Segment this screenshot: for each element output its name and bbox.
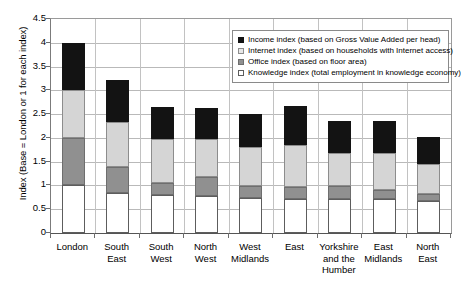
x-axis-tick-mark (50, 233, 51, 238)
bar-segment-knowledge[interactable] (151, 195, 174, 233)
bar-segment-office[interactable] (373, 190, 396, 199)
x-axis-tick-mark (406, 233, 407, 238)
bar-segment-knowledge[interactable] (373, 199, 396, 233)
bar-segment-office[interactable] (195, 177, 218, 196)
x-axis-tick-mark (94, 233, 95, 238)
bar-segment-income[interactable] (284, 106, 307, 145)
x-axis-tick-marks (50, 233, 452, 238)
legend-label: Knowledge index (total employment in kno… (248, 68, 461, 77)
bar-segment-knowledge[interactable] (328, 199, 351, 233)
x-axis-tick-mark (317, 233, 318, 238)
bar-segment-internet[interactable] (195, 139, 218, 177)
bar-segment-knowledge[interactable] (106, 193, 129, 233)
bar-segment-office[interactable] (328, 186, 351, 198)
stacked-bar[interactable] (195, 19, 218, 233)
bar-segment-knowledge[interactable] (62, 185, 85, 233)
stacked-bar[interactable] (62, 19, 85, 233)
legend-swatch-income-icon (238, 37, 244, 43)
bar-segment-income[interactable] (239, 114, 262, 147)
stacked-bar[interactable] (106, 19, 129, 233)
y-axis-tick-label: 3 (6, 85, 46, 95)
x-axis-label-line: Humber (311, 264, 367, 276)
legend-item[interactable]: Office index (based on floor area) (238, 57, 444, 68)
y-axis-tick-labels: 00.511.522.533.544.5 (2, 18, 46, 232)
bar-segment-office[interactable] (417, 194, 440, 201)
bar-segment-internet[interactable] (284, 145, 307, 187)
bar-segment-knowledge[interactable] (195, 196, 218, 233)
legend-item[interactable]: Knowledge index (total employment in kno… (238, 68, 444, 79)
bar-segment-office[interactable] (151, 183, 174, 195)
bar-group[interactable] (184, 19, 228, 233)
legend-swatch-knowledge-icon (238, 70, 244, 76)
bar-segment-internet[interactable] (328, 153, 351, 187)
legend-item[interactable]: Income index (based on Gross Value Added… (238, 35, 444, 46)
bar-segment-knowledge[interactable] (239, 198, 262, 233)
bar-segment-income[interactable] (195, 108, 218, 139)
bar-segment-office[interactable] (106, 167, 129, 193)
legend-label: Office index (based on floor area) (248, 57, 367, 66)
bar-segment-knowledge[interactable] (284, 199, 307, 233)
bar-segment-income[interactable] (328, 121, 351, 152)
y-axis-tick-label: 1 (6, 180, 46, 190)
bar-segment-knowledge[interactable] (417, 201, 440, 233)
x-axis-tick-labels: LondonSouthEastSouthWestNorthWestWestMid… (50, 241, 450, 289)
y-axis-tick-label: 4.5 (6, 13, 46, 22)
bar-segment-internet[interactable] (239, 147, 262, 186)
y-axis-tick-label: 0 (6, 227, 46, 237)
bar-group[interactable] (51, 19, 95, 233)
stacked-bar[interactable] (151, 19, 174, 233)
bar-segment-office[interactable] (284, 187, 307, 199)
x-axis-tick-mark (139, 233, 140, 238)
bar-segment-internet[interactable] (417, 164, 440, 194)
chart-legend: Income index (based on Gross Value Added… (232, 30, 449, 83)
bar-segment-income[interactable] (151, 107, 174, 139)
y-axis-tick-label: 0.5 (6, 204, 46, 214)
y-axis-tick-label: 1.5 (6, 156, 46, 166)
legend-item[interactable]: Internet index (based on households with… (238, 46, 444, 57)
y-axis-tick-label: 3.5 (6, 61, 46, 71)
bar-segment-income[interactable] (373, 121, 396, 153)
y-axis-tick-label: 2.5 (6, 108, 46, 118)
x-axis-tick-mark (450, 233, 451, 238)
x-axis-tick-mark (183, 233, 184, 238)
bar-segment-office[interactable] (62, 138, 85, 186)
x-axis-label-line: East (400, 253, 456, 265)
legend-swatch-office-icon (238, 59, 244, 65)
bar-segment-internet[interactable] (373, 153, 396, 190)
x-axis-tick-mark (272, 233, 273, 238)
x-axis-tick-label: NorthEast (400, 241, 456, 264)
y-axis-tick-label: 2 (6, 132, 46, 142)
bar-segment-internet[interactable] (106, 122, 129, 167)
bar-segment-internet[interactable] (151, 139, 174, 183)
bar-group[interactable] (140, 19, 184, 233)
bar-segment-office[interactable] (239, 186, 262, 198)
bar-segment-income[interactable] (106, 80, 129, 122)
bar-segment-internet[interactable] (62, 90, 85, 138)
legend-label: Income index (based on Gross Value Added… (248, 35, 440, 44)
legend-label: Internet index (based on households with… (248, 46, 453, 55)
x-axis-label-line: Midlands (222, 253, 278, 265)
x-axis-tick-mark (361, 233, 362, 238)
legend-swatch-internet-icon (238, 48, 244, 54)
y-axis-tick-label: 4 (6, 37, 46, 47)
x-axis-tick-mark (228, 233, 229, 238)
x-axis-label-line: North (400, 241, 456, 253)
bar-segment-income[interactable] (417, 137, 440, 164)
bar-segment-income[interactable] (62, 43, 85, 91)
bar-group[interactable] (95, 19, 139, 233)
